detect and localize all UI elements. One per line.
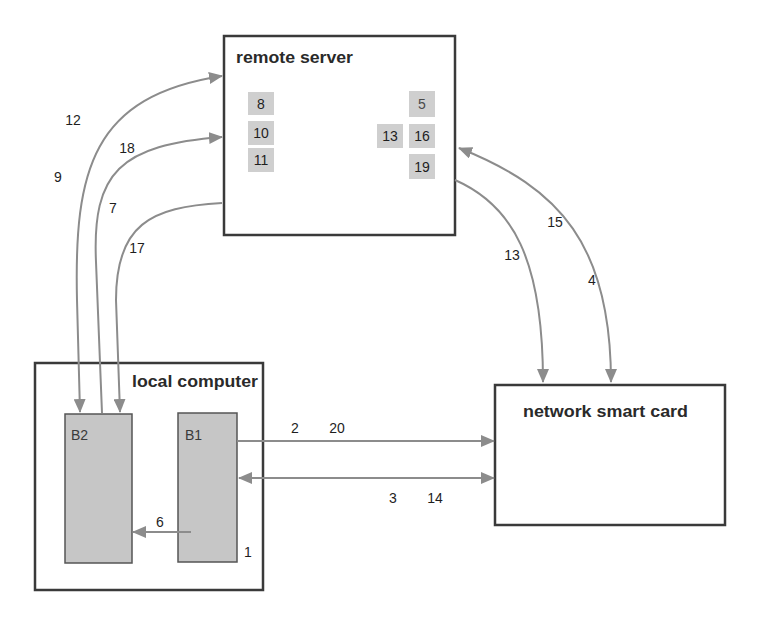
edge-label: 13 <box>504 247 520 263</box>
edge-label: 18 <box>119 140 135 156</box>
edge-label: 3 <box>389 490 397 506</box>
step-badge: 5 <box>409 91 435 117</box>
step-badge: 13 <box>377 124 403 148</box>
arrow-icon <box>455 180 543 382</box>
edge-label: 15 <box>547 214 563 230</box>
step-badge: 19 <box>409 154 435 179</box>
step-label: 1 <box>244 544 252 560</box>
edge-label: 14 <box>427 490 443 506</box>
buffer-b1: B1 <box>178 413 237 562</box>
step-badge-label: 11 <box>254 152 269 168</box>
local-computer-label: local computer <box>132 373 258 390</box>
step-badge: 16 <box>409 124 435 148</box>
edge-server-to-card: 13 <box>455 180 543 382</box>
local-computer-node: local computer B2 B1 1 <box>35 363 263 590</box>
buffer-b1-label: B1 <box>185 427 202 443</box>
step-badge: 10 <box>248 121 274 145</box>
step-badge-label: 16 <box>414 128 430 144</box>
edge-label: 17 <box>129 240 145 256</box>
protocol-diagram: remote server 8 10 11 5 13 16 19 <box>0 0 758 619</box>
step-badge-label: 10 <box>253 125 269 141</box>
arrow-icon <box>459 148 611 382</box>
network-smart-card-label: network smart card <box>523 403 688 420</box>
buffer-b2: B2 <box>65 414 132 563</box>
remote-server-label: remote server <box>236 49 353 66</box>
edge-server-card-bidirectional: 15 4 <box>459 148 611 382</box>
edge-label: 12 <box>65 112 81 128</box>
step-badge-label: 13 <box>382 128 398 144</box>
step-badge-label: 5 <box>418 96 426 112</box>
edge-label: 6 <box>156 514 164 530</box>
edge-label: 2 <box>291 420 299 436</box>
remote-server-node: remote server 8 10 11 5 13 16 19 <box>224 36 455 235</box>
step-badge-label: 8 <box>257 96 265 112</box>
buffer-b2-label: B2 <box>71 427 88 443</box>
step-badge-label: 19 <box>414 159 430 175</box>
edge-b1-to-card: 2 20 <box>237 420 494 441</box>
edge-label: 9 <box>54 169 62 185</box>
edge-label: 4 <box>588 272 596 288</box>
arrow-icon <box>77 76 222 412</box>
edge-label: 20 <box>329 420 345 436</box>
network-smart-card-node: network smart card <box>495 385 725 525</box>
step-badge: 11 <box>248 148 274 172</box>
step-badge: 8 <box>248 92 274 115</box>
edge-label: 7 <box>109 200 117 216</box>
edge-b1-card-bidirectional: 3 14 <box>239 478 494 506</box>
